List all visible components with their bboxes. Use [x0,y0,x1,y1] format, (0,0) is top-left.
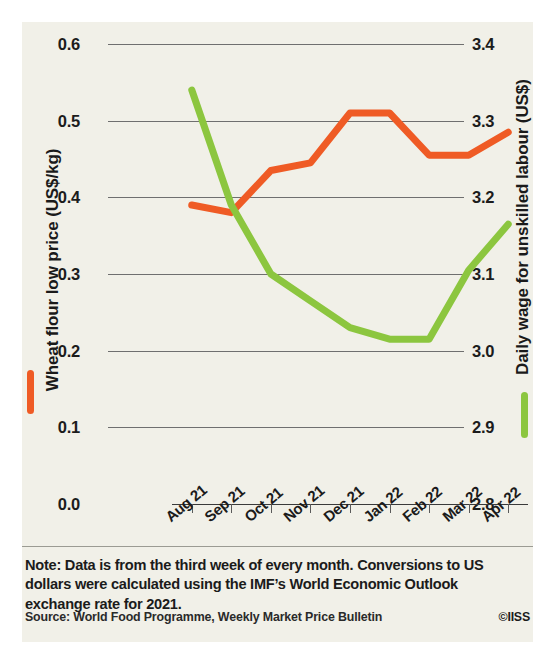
series-line [192,113,508,213]
left-tick-label: 0.0 [22,496,80,513]
footer-divider [22,546,533,547]
chart-source: Source: World Food Programme, Weekly Mar… [25,610,382,624]
left-tick-label: 0.4 [22,189,80,206]
chart-figure: Wheat flour low price (US$/kg) Daily wag… [22,22,533,642]
chart-note: Note: Data is from the third week of eve… [25,556,525,614]
left-tick-label: 0.6 [22,36,80,53]
data-series-layer [86,26,533,526]
plot-area: 0.00.10.20.30.40.50.6 2.82.93.03.13.23.3… [86,26,486,506]
copyright-label: ©IISS [498,610,530,624]
legend-swatch-wheat-flour [27,370,34,414]
left-tick-label: 0.3 [22,266,80,283]
series-line [192,90,508,339]
left-tick-label: 0.1 [22,419,80,436]
left-tick-label: 0.2 [22,343,80,360]
left-tick-label: 0.5 [22,113,80,130]
